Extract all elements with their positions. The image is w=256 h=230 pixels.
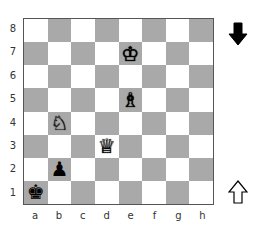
rank-label-4: 4 bbox=[8, 117, 18, 128]
file-label-f: f bbox=[143, 210, 167, 221]
square-e7[interactable]: ♔ bbox=[119, 42, 143, 65]
square-h2[interactable] bbox=[189, 158, 213, 181]
square-a5[interactable] bbox=[24, 88, 48, 111]
square-e2[interactable] bbox=[119, 158, 143, 181]
white-queen-icon[interactable]: ♕ bbox=[98, 136, 116, 156]
rank-label-2: 2 bbox=[8, 163, 18, 174]
rank-label-5: 5 bbox=[8, 93, 18, 104]
square-c6[interactable] bbox=[71, 65, 95, 88]
square-e8[interactable] bbox=[119, 19, 143, 42]
square-d1[interactable] bbox=[95, 181, 119, 204]
square-g8[interactable] bbox=[166, 19, 190, 42]
square-d2[interactable] bbox=[95, 158, 119, 181]
square-a3[interactable] bbox=[24, 135, 48, 158]
square-a4[interactable] bbox=[24, 112, 48, 135]
square-b2[interactable]: ♟ bbox=[48, 158, 72, 181]
square-f7[interactable] bbox=[142, 42, 166, 65]
square-a7[interactable] bbox=[24, 42, 48, 65]
rank-label-7: 7 bbox=[8, 46, 18, 57]
square-b6[interactable] bbox=[48, 65, 72, 88]
square-f4[interactable] bbox=[142, 112, 166, 135]
white-king-icon[interactable]: ♔ bbox=[121, 44, 139, 64]
square-e4[interactable] bbox=[119, 112, 143, 135]
file-label-e: e bbox=[119, 210, 143, 221]
square-c8[interactable] bbox=[71, 19, 95, 42]
square-g6[interactable] bbox=[166, 65, 190, 88]
square-g4[interactable] bbox=[166, 112, 190, 135]
square-c2[interactable] bbox=[71, 158, 95, 181]
square-d4[interactable] bbox=[95, 112, 119, 135]
square-d7[interactable] bbox=[95, 42, 119, 65]
square-e5[interactable]: ♗ bbox=[119, 88, 143, 111]
square-h8[interactable] bbox=[189, 19, 213, 42]
square-f6[interactable] bbox=[142, 65, 166, 88]
square-c3[interactable] bbox=[71, 135, 95, 158]
square-b1[interactable] bbox=[48, 181, 72, 204]
file-label-h: h bbox=[190, 210, 214, 221]
square-d3[interactable]: ♕ bbox=[95, 135, 119, 158]
square-g5[interactable] bbox=[166, 88, 190, 111]
rank-label-8: 8 bbox=[8, 23, 18, 34]
square-h5[interactable] bbox=[189, 88, 213, 111]
square-b3[interactable] bbox=[48, 135, 72, 158]
rank-label-3: 3 bbox=[8, 140, 18, 151]
rank-label-1: 1 bbox=[8, 187, 18, 198]
square-b8[interactable] bbox=[48, 19, 72, 42]
square-g2[interactable] bbox=[166, 158, 190, 181]
square-d5[interactable] bbox=[95, 88, 119, 111]
square-a6[interactable] bbox=[24, 65, 48, 88]
white-up-arrow-icon bbox=[228, 180, 248, 204]
square-e1[interactable] bbox=[119, 181, 143, 204]
square-f2[interactable] bbox=[142, 158, 166, 181]
square-c5[interactable] bbox=[71, 88, 95, 111]
square-b7[interactable] bbox=[48, 42, 72, 65]
square-c4[interactable] bbox=[71, 112, 95, 135]
square-e6[interactable] bbox=[119, 65, 143, 88]
square-b5[interactable] bbox=[48, 88, 72, 111]
square-e3[interactable] bbox=[119, 135, 143, 158]
square-a1[interactable]: ♚ bbox=[24, 181, 48, 204]
white-knight-icon[interactable]: ♘ bbox=[50, 113, 68, 133]
square-g1[interactable] bbox=[166, 181, 190, 204]
square-f3[interactable] bbox=[142, 135, 166, 158]
black-pawn-icon[interactable]: ♟ bbox=[50, 159, 68, 179]
black-down-arrow-icon bbox=[228, 22, 248, 46]
square-h1[interactable] bbox=[189, 181, 213, 204]
white-bishop-icon[interactable]: ♗ bbox=[121, 90, 139, 110]
black-king-icon[interactable]: ♚ bbox=[27, 182, 45, 202]
square-h3[interactable] bbox=[189, 135, 213, 158]
square-c1[interactable] bbox=[71, 181, 95, 204]
square-d8[interactable] bbox=[95, 19, 119, 42]
file-label-d: d bbox=[95, 210, 119, 221]
file-label-g: g bbox=[166, 210, 190, 221]
file-label-c: c bbox=[71, 210, 95, 221]
square-h6[interactable] bbox=[189, 65, 213, 88]
square-h4[interactable] bbox=[189, 112, 213, 135]
square-a2[interactable] bbox=[24, 158, 48, 181]
square-f8[interactable] bbox=[142, 19, 166, 42]
rank-label-6: 6 bbox=[8, 70, 18, 81]
square-g7[interactable] bbox=[166, 42, 190, 65]
square-a8[interactable] bbox=[24, 19, 48, 42]
square-c7[interactable] bbox=[71, 42, 95, 65]
chess-board[interactable]: ♔♗♘♕♟♚ bbox=[23, 18, 214, 205]
square-f1[interactable] bbox=[142, 181, 166, 204]
square-g3[interactable] bbox=[166, 135, 190, 158]
square-b4[interactable]: ♘ bbox=[48, 112, 72, 135]
square-f5[interactable] bbox=[142, 88, 166, 111]
square-d6[interactable] bbox=[95, 65, 119, 88]
file-label-b: b bbox=[47, 210, 71, 221]
square-h7[interactable] bbox=[189, 42, 213, 65]
file-label-a: a bbox=[23, 210, 47, 221]
